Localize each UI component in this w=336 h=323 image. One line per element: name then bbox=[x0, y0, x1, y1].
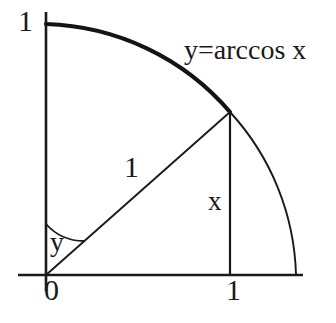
origin-tick-label-0: 0 bbox=[44, 275, 59, 305]
y-axis-tick-label-1: 1 bbox=[18, 6, 33, 36]
arccos-diagram: 1 0 1 1 x y y=arccos x bbox=[0, 0, 336, 323]
curve-equation-label: y=arccos x bbox=[184, 36, 306, 64]
unit-circle-arc-thin bbox=[230, 112, 296, 275]
angle-label-y: y bbox=[50, 228, 64, 256]
x-axis-tick-label-1: 1 bbox=[226, 275, 241, 305]
radius-line bbox=[46, 112, 230, 275]
vertical-segment-label-x: x bbox=[208, 188, 222, 215]
radius-length-label: 1 bbox=[124, 152, 139, 182]
